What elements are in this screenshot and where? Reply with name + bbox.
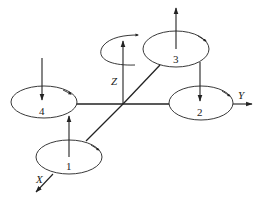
rotor-1: 1 xyxy=(36,116,102,174)
y-axis: Y xyxy=(233,89,252,104)
rotor-1-label: 1 xyxy=(66,160,72,172)
rotor-3-label: 3 xyxy=(173,53,179,65)
rotor-2-label: 2 xyxy=(197,106,203,118)
y-axis-label: Y xyxy=(238,89,246,101)
x-axis-label: X xyxy=(35,173,44,185)
z-rotation-arc-icon xyxy=(101,35,138,65)
x-axis: X xyxy=(35,173,53,192)
rotor-4: 4 xyxy=(11,58,77,118)
arm-to-rotor-3 xyxy=(123,65,160,104)
rotor-2: 2 xyxy=(169,62,233,120)
z-axis-label: Z xyxy=(111,75,118,87)
quadrotor-diagram: Z Y X 3 2 4 1 xyxy=(0,0,257,203)
rotor-4-label: 4 xyxy=(39,105,45,117)
rotor-3: 3 xyxy=(143,8,209,67)
arm-to-rotor-1 xyxy=(86,104,123,141)
